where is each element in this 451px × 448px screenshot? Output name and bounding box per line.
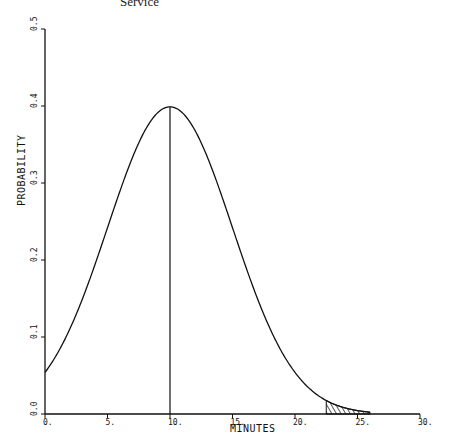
- y-axis-title: PROBABILITY: [16, 134, 27, 206]
- axis-labels: 0.5.10.15.20.25.30.0.00.10.20.30.40.5MIN…: [16, 16, 432, 434]
- plot-area: [45, 107, 370, 414]
- y-tick-label: 0.5: [30, 16, 39, 31]
- density-curve: [45, 107, 370, 412]
- y-tick-label: 0.0: [30, 401, 39, 416]
- x-tick-label: 20.: [293, 418, 307, 427]
- x-tick-label: 5.: [106, 418, 116, 427]
- x-tick-label: 0.: [43, 418, 53, 427]
- shaded-tail-region: [326, 401, 370, 415]
- x-tick-label: 30.: [418, 418, 432, 427]
- x-tick-label: 10.: [168, 418, 182, 427]
- x-tick-label: 25.: [356, 418, 370, 427]
- y-tick-label: 0.2: [30, 247, 39, 262]
- y-tick-label: 0.1: [30, 324, 39, 339]
- y-tick-label: 0.4: [30, 93, 39, 108]
- normal-distribution-chart: 0.5.10.15.20.25.30.0.00.10.20.30.40.5MIN…: [0, 0, 451, 448]
- x-axis-title: MINUTES: [230, 423, 276, 434]
- y-tick-label: 0.3: [30, 170, 39, 185]
